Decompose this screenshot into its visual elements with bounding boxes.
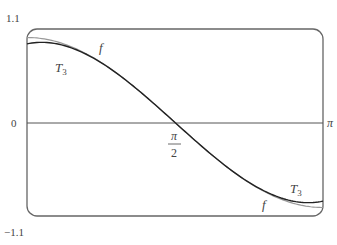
annotation-T3-bottom-sub: 3	[297, 188, 302, 198]
annotation-f-top: f	[99, 40, 105, 55]
x-tick-label-pi-half-denominator: 2	[171, 146, 177, 160]
annotation-T3-top: T3	[55, 60, 67, 77]
annotation-T3-bottom: T3	[290, 181, 302, 198]
y-tick-label-top: 1.1	[6, 12, 20, 24]
x-tick-label-pi: π	[327, 116, 334, 130]
y-tick-label-bottom: −1.1	[4, 226, 24, 238]
annotation-f-bottom: f	[262, 197, 268, 212]
annotation-T3-top-sub: 3	[62, 67, 67, 77]
chart: 1.1 0 −1.1 π 2 π f T3 T3 f	[0, 0, 337, 245]
y-tick-label-zero: 0	[11, 117, 17, 129]
x-tick-label-pi-half-numerator: π	[171, 129, 178, 143]
